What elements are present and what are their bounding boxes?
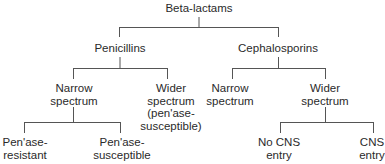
- node-no-cns-entry: No CNS entry: [258, 136, 300, 161]
- node-label-line: entry: [359, 149, 385, 162]
- node-label-line: CNS: [359, 136, 385, 149]
- node-label-line: spectrum: [301, 95, 348, 108]
- node-label-line: Pen'ase-: [2, 136, 47, 149]
- node-penicillin-narrow-spectrum: Narrow spectrum: [50, 82, 97, 107]
- node-label-line: Pen'ase-: [93, 136, 151, 149]
- node-penicillinase-susceptible: Pen'ase- susceptible: [93, 136, 151, 161]
- node-beta-lactams: Beta-lactams: [165, 2, 232, 15]
- node-label-line: susceptible): [140, 120, 201, 133]
- node-cns-entry: CNS entry: [359, 136, 385, 161]
- node-label-line: (pen'ase-: [140, 107, 201, 120]
- node-cephalosporin-wider-spectrum: Wider spectrum: [301, 82, 348, 107]
- node-label-line: entry: [258, 149, 300, 162]
- node-penicillinase-resistant: Pen'ase- resistant: [2, 136, 47, 161]
- node-label-line: Narrow: [50, 82, 97, 95]
- node-label-line: Wider: [140, 82, 201, 95]
- node-label-line: Narrow: [206, 82, 253, 95]
- node-label-line: spectrum: [140, 95, 201, 108]
- node-label: Cephalosporins: [238, 42, 318, 54]
- node-cephalosporin-narrow-spectrum: Narrow spectrum: [206, 82, 253, 107]
- node-label: Beta-lactams: [165, 2, 232, 14]
- node-label-line: susceptible: [93, 149, 151, 162]
- node-penicillin-wider-spectrum: Wider spectrum (pen'ase- susceptible): [140, 82, 201, 132]
- node-label-line: spectrum: [206, 95, 253, 108]
- node-label-line: No CNS: [258, 136, 300, 149]
- node-label-line: spectrum: [50, 95, 97, 108]
- node-label: Penicillins: [94, 42, 145, 54]
- node-label-line: resistant: [2, 149, 47, 162]
- node-penicillins: Penicillins: [94, 42, 145, 55]
- node-cephalosporins: Cephalosporins: [238, 42, 318, 55]
- node-label-line: Wider: [301, 82, 348, 95]
